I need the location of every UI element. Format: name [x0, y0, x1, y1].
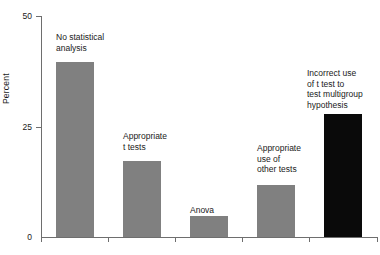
bar-label-1: Appropriate t tests [123, 131, 195, 152]
x-tick-mark-1 [108, 238, 109, 242]
bar-1 [123, 161, 161, 237]
y-axis-line [41, 16, 42, 237]
bar-label-4: Incorrect use of t test to test multigro… [307, 68, 380, 110]
y-tick-label-0: 0 [0, 233, 32, 242]
x-tick-mark-0 [41, 238, 42, 242]
x-tick-mark-3 [242, 238, 243, 242]
bar-3 [257, 185, 295, 237]
x-axis-line [41, 237, 378, 238]
y-tick-label-25: 25 [0, 123, 32, 132]
x-tick-mark-5 [377, 238, 378, 242]
bar-label-3: Appropriate use of other tests [257, 143, 323, 175]
y-axis-title: Percent [1, 73, 11, 104]
bar-label-2: Anova [190, 205, 250, 216]
bar-label-0: No statistical analysis [56, 32, 136, 53]
x-tick-mark-2 [175, 238, 176, 242]
bar-2 [190, 216, 228, 237]
y-tick-mark-25 [36, 127, 41, 128]
y-tick-label-50: 50 [0, 12, 32, 21]
x-tick-mark-4 [309, 238, 310, 242]
bar-4 [324, 114, 362, 237]
y-tick-mark-50 [36, 16, 41, 17]
bar-0 [56, 62, 94, 237]
bar-chart: 50 25 0 Percent No statistical analysis … [0, 0, 380, 255]
